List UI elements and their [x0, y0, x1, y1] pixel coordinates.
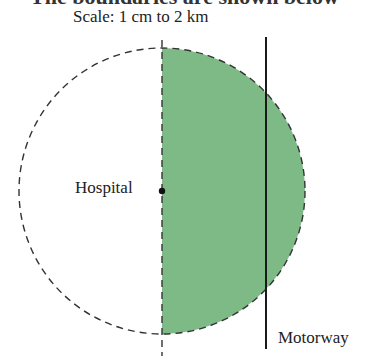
- diagram-graphic: [0, 0, 370, 360]
- shaded-region: [162, 48, 305, 334]
- motorway-label: Motorway: [278, 328, 349, 348]
- hospital-label: Hospital: [75, 178, 133, 198]
- diagram-canvas: The boundaries are shown below Scale: 1 …: [0, 0, 370, 360]
- hospital-point: [159, 188, 165, 194]
